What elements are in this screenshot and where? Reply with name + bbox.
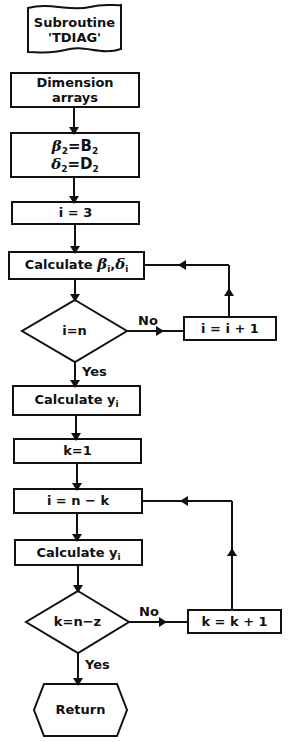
delta-rhs: =D [67, 155, 92, 173]
set-i-label: i = n − k [14, 493, 142, 508]
dimension-line1: Dimension [11, 75, 139, 90]
decision-i-label: i=n [22, 323, 127, 338]
flowchart-canvas [0, 0, 289, 742]
init-i-label: i = 3 [12, 205, 139, 220]
delta-symbol: δ [51, 155, 61, 173]
delta-rhs-subscript: 2 [93, 164, 99, 174]
dimension-line2: arrays [11, 90, 139, 105]
calc-beta-delta-label: Calculate βi,δi [9, 257, 144, 272]
delta-subscript: i [125, 264, 128, 274]
return-label: Return [34, 702, 127, 717]
delta-assignment: δ2=D2 [11, 155, 139, 173]
start-node-label: Subroutine 'TDIAG' [28, 15, 121, 45]
calc-prefix: Calculate [34, 392, 107, 407]
calc-prefix: Calculate [25, 257, 98, 272]
decision-k-no-label: No [139, 604, 159, 619]
decision-k-label: k=n−z [26, 614, 129, 629]
dimension-label: Dimension arrays [11, 75, 139, 105]
increment-k-label: k = k + 1 [188, 614, 281, 629]
y-subscript: i [117, 552, 120, 562]
calc-y-1-label: Calculate yi [13, 392, 140, 407]
y-subscript: i [115, 399, 118, 409]
delta-symbol: δ [115, 255, 125, 273]
increment-i-label: i = i + 1 [184, 321, 276, 336]
decision-i-no-label: No [138, 313, 158, 328]
start-line2: 'TDIAG' [28, 30, 121, 45]
beta-assignment: β2=B2 [11, 137, 139, 155]
calc-y-2-label: Calculate yi [15, 545, 142, 560]
decision-i-yes-label: Yes [82, 364, 107, 379]
beta-rhs: =B [68, 137, 92, 155]
beta-symbol: β [97, 255, 107, 273]
beta-symbol: β [52, 137, 62, 155]
start-line1: Subroutine [28, 15, 121, 30]
calc-prefix: Calculate [36, 545, 109, 560]
init-beta-delta-label: β2=B2 δ2=D2 [11, 137, 139, 173]
decision-k-yes-label: Yes [85, 657, 110, 672]
init-k-label: k=1 [14, 443, 141, 458]
